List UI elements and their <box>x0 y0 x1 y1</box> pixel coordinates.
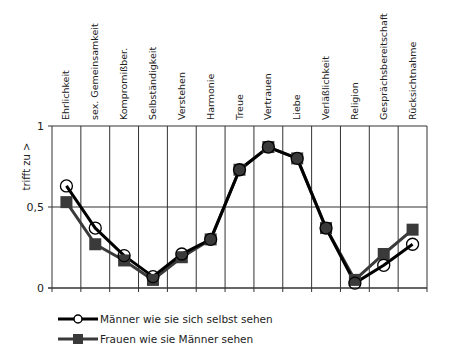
legend-line-circle-icon <box>58 313 98 325</box>
category-label: sex. Gemeinsamkeit <box>89 23 100 120</box>
legend-item-women: Frauen wie sie Männer sehen <box>58 333 253 345</box>
square-marker <box>349 274 361 286</box>
category-labels: Ehrlichkeitsex. GemeinsamkeitKompromißbe… <box>60 13 417 121</box>
legend-label-women: Frauen wie sie Männer sehen <box>100 333 253 345</box>
category-label: Selbständigkeit <box>147 47 158 120</box>
y-tick-label: 1 <box>37 120 44 133</box>
square-marker <box>407 224 419 236</box>
legend-label-men: Männer wie sie sich selbst sehen <box>100 313 273 325</box>
y-axis-label: trifft zu > <box>21 143 32 191</box>
square-marker <box>60 196 72 208</box>
category-label: Vertrauen <box>262 73 273 120</box>
legend-line-square-icon <box>58 333 98 345</box>
y-tick-label: 0,5 <box>27 201 45 214</box>
category-label: Rücksichtnahme <box>407 41 418 120</box>
category-label: Kompromißber. <box>118 48 129 120</box>
category-label: Ehrlichkeit <box>60 70 71 120</box>
category-label: Verläßlichkeit <box>320 56 331 120</box>
category-label: Gesprächsbereitschaft <box>378 13 389 120</box>
line-chart: Ehrlichkeitsex. GemeinsamkeitKompromißbe… <box>0 0 450 362</box>
chart-series <box>60 141 418 289</box>
square-marker <box>89 238 101 250</box>
y-tick-label: 0 <box>37 282 44 295</box>
category-label: Treue <box>234 94 245 121</box>
category-label: Harmonie <box>205 74 216 120</box>
square-marker <box>147 274 159 286</box>
category-label: Religion <box>349 82 360 120</box>
y-axis: 00,51trifft zu > <box>21 120 44 295</box>
square-marker <box>378 248 390 260</box>
category-label: Liebe <box>291 94 302 120</box>
category-label: Verstehen <box>176 72 187 120</box>
square-marker <box>176 251 188 263</box>
legend-item-men: Männer wie sie sich selbst sehen <box>58 313 273 325</box>
